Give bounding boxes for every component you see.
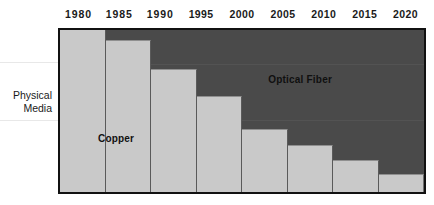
copper-segment-2015 xyxy=(379,174,425,192)
copper-segment-1980 xyxy=(60,30,106,192)
copper-segment-1990 xyxy=(151,69,197,192)
background-rule-upper xyxy=(0,62,58,63)
copper-segment-1995 xyxy=(197,96,243,192)
x-tick-1980: 1980 xyxy=(58,6,99,23)
x-tick-2015: 2015 xyxy=(344,6,385,23)
x-tick-2005: 2005 xyxy=(262,6,303,23)
physical-media-chart: Physical Media 1980 1985 1990 1995 2000 … xyxy=(0,0,434,205)
x-tick-1985: 1985 xyxy=(99,6,140,23)
x-tick-2000: 2000 xyxy=(222,6,263,23)
copper-segment-2000 xyxy=(242,129,288,192)
copper-segment-2005 xyxy=(288,145,334,192)
plot-inner: Copper Optical Fiber xyxy=(60,30,424,192)
copper-segment-2010 xyxy=(333,160,379,192)
x-tick-1995: 1995 xyxy=(181,6,222,23)
series-label-copper: Copper xyxy=(98,133,134,144)
x-tick-2020: 2020 xyxy=(385,6,426,23)
series-label-optical-fiber: Optical Fiber xyxy=(268,74,332,85)
x-tick-2010: 2010 xyxy=(303,6,344,23)
plot-area: Copper Optical Fiber xyxy=(58,28,426,194)
copper-segment-1985 xyxy=(106,40,152,192)
x-axis-tick-labels: 1980 1985 1990 1995 2000 2005 2010 2015 … xyxy=(58,6,426,23)
background-rule-lower xyxy=(0,120,58,121)
y-axis-category-label: Physical Media xyxy=(0,89,52,115)
x-tick-1990: 1990 xyxy=(140,6,181,23)
